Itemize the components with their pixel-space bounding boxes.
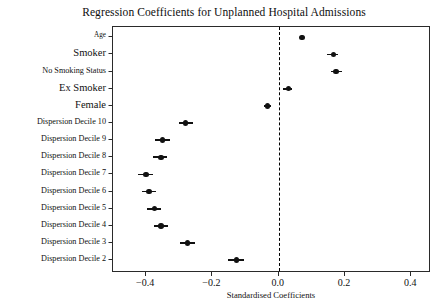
y-axis-tick-label: Dispersion Decile 7 xyxy=(41,169,106,177)
y-axis-tick xyxy=(109,88,113,89)
y-axis-tick xyxy=(109,139,113,140)
y-axis-tick xyxy=(109,156,113,157)
data-point xyxy=(160,137,165,142)
y-axis-tick xyxy=(109,191,113,192)
y-axis-tick-label: No Smoking Status xyxy=(42,66,106,74)
y-axis-tick-label: Dispersion Decile 5 xyxy=(41,204,106,212)
data-point xyxy=(265,103,270,108)
x-axis-tick-label: 0.4 xyxy=(404,277,417,288)
y-axis-tick xyxy=(109,71,113,72)
y-axis-tick xyxy=(109,122,113,123)
data-point xyxy=(146,189,151,194)
plot-area xyxy=(112,26,430,272)
x-axis-tick xyxy=(145,272,146,276)
chart-title: Regression Coefficients for Unplanned Ho… xyxy=(0,6,448,18)
data-point xyxy=(158,223,163,228)
y-axis-tick-label: Dispersion Decile 3 xyxy=(41,238,106,246)
y-axis-tick-label: Female xyxy=(75,100,106,111)
data-point xyxy=(333,69,338,74)
y-axis-tick xyxy=(109,53,113,54)
y-axis-tick xyxy=(109,208,113,209)
y-axis-tick xyxy=(109,36,113,37)
data-point xyxy=(299,35,304,40)
x-axis-tick xyxy=(344,272,345,276)
data-point xyxy=(143,172,148,177)
x-axis-tick-label: −0.2 xyxy=(202,277,220,288)
x-axis-tick xyxy=(211,272,212,276)
y-axis-tick xyxy=(109,105,113,106)
y-axis-tick xyxy=(109,259,113,260)
x-axis-tick xyxy=(278,272,279,276)
x-axis-tick-label: 0.0 xyxy=(271,277,284,288)
data-point xyxy=(158,155,163,160)
y-axis-tick-label: Dispersion Decile 6 xyxy=(41,186,106,194)
y-axis-tick-label: Age xyxy=(94,33,106,40)
x-axis-tick-label: −0.4 xyxy=(136,277,154,288)
y-axis-tick xyxy=(109,242,113,243)
y-axis-tick-label: Dispersion Decile 2 xyxy=(41,255,106,263)
y-axis-tick-label: Dispersion Decile 10 xyxy=(37,118,106,126)
data-point xyxy=(286,86,291,91)
x-axis-label: Standardised Coefficients xyxy=(112,290,430,300)
y-axis-tick-label: Smoker xyxy=(73,48,106,59)
y-axis-tick xyxy=(109,225,113,226)
data-point xyxy=(185,240,190,245)
data-point xyxy=(183,120,188,125)
zero-reference-line xyxy=(279,27,280,271)
data-point xyxy=(152,206,157,211)
x-axis-tick-label: 0.2 xyxy=(338,277,351,288)
x-axis-tick xyxy=(410,272,411,276)
y-axis-tick-label: Dispersion Decile 8 xyxy=(41,152,106,160)
y-axis-labels: AgeSmokerNo Smoking StatusEx SmokerFemal… xyxy=(0,26,106,272)
data-point xyxy=(234,257,239,262)
y-axis-tick-label: Dispersion Decile 9 xyxy=(41,135,106,143)
regression-coefficient-forest-plot: Regression Coefficients for Unplanned Ho… xyxy=(0,0,448,306)
data-point xyxy=(331,52,336,57)
y-axis-tick-label: Ex Smoker xyxy=(59,82,106,93)
y-axis-tick xyxy=(109,173,113,174)
y-axis-tick-label: Dispersion Decile 4 xyxy=(41,221,106,229)
